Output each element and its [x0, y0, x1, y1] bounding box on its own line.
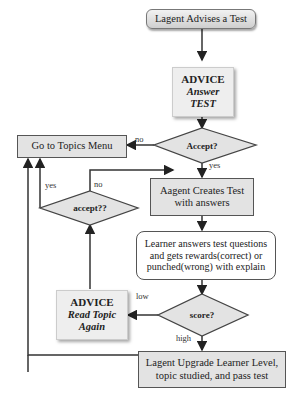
start-node: Lagent Advises a Test: [146, 9, 256, 29]
advice-line2: TEST: [190, 98, 216, 110]
upgrade-node: Lagent Upgrade Learner Level, topic stud…: [138, 351, 286, 388]
edge-label-accept2-no: no: [94, 179, 103, 189]
edge-label-accept2-yes: yes: [45, 180, 56, 190]
advice-answer-test-node: ADVICE Answer TEST: [172, 67, 234, 117]
advice-title: ADVICE: [181, 73, 224, 86]
advice-read-topic-node: ADVICE Read Topic Again: [56, 290, 128, 340]
topics-menu-node: Go to Topics Menu: [17, 135, 127, 158]
create-test-line1: Aagent Creates Test: [160, 185, 244, 197]
edge-label-score-low: low: [136, 291, 149, 301]
upgrade-line2: topic studied, and pass test: [156, 370, 268, 382]
accept-decision-label: Accept?: [187, 141, 218, 151]
score-decision-label: score?: [190, 310, 214, 320]
edge-label-accept-no: no: [135, 134, 144, 144]
topics-menu-label: Go to Topics Menu: [31, 140, 112, 152]
edge-label-accept-yes: yes: [209, 160, 220, 170]
advice-line1: Answer: [187, 86, 220, 98]
advice-read-line1: Read Topic: [68, 309, 116, 321]
advice-read-title: ADVICE: [70, 296, 113, 309]
start-label: Lagent Advises a Test: [155, 13, 247, 25]
learner-line1: Learner answers test questions: [145, 238, 267, 250]
create-test-line2: with answers: [174, 197, 229, 209]
learner-line2: and gets rewards(correct) or: [150, 250, 262, 262]
edge-label-score-high: high: [176, 333, 191, 343]
accept2-decision-label: accept??: [73, 203, 107, 213]
learner-answers-node: Learner answers test questions and gets …: [136, 231, 276, 280]
upgrade-line1: Lagent Upgrade Learner Level,: [146, 357, 278, 369]
create-test-node: Aagent Creates Test with answers: [150, 178, 254, 216]
learner-line3: punched(wrong) with explain: [147, 261, 265, 273]
advice-read-line2: Again: [79, 321, 105, 333]
